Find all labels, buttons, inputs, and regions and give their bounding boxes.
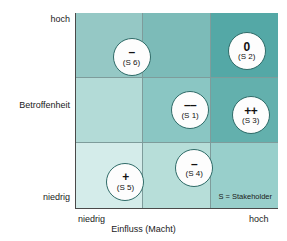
- matrix-grid: –(S 6)0(S 2)––(S 1)++(S 3)–(S 4)+(S 5)S …: [75, 13, 278, 209]
- stakeholder-bubble-s4[interactable]: –(S 4): [175, 149, 213, 187]
- stakeholder-id-label: (S 4): [185, 170, 202, 178]
- stakeholder-id-label: (S 5): [117, 184, 134, 192]
- x-axis-tick-high: hoch: [249, 214, 269, 224]
- stakeholder-bubble-s6[interactable]: –(S 6): [113, 38, 151, 76]
- minus-symbol: –: [191, 158, 197, 169]
- minus-symbol: –: [128, 47, 134, 58]
- stakeholder-bubble-s1[interactable]: ––(S 1): [171, 91, 209, 129]
- double-minus-symbol: ––: [184, 100, 196, 111]
- stakeholder-id-label: (S 1): [181, 112, 198, 120]
- zero-symbol: 0: [244, 41, 250, 52]
- double-plus-symbol: ++: [244, 105, 257, 116]
- stakeholder-bubble-s3[interactable]: ++(S 3): [232, 96, 270, 134]
- stakeholder-id-label: (S 3): [242, 117, 259, 125]
- x-axis-tick-low: niedrig: [78, 214, 105, 224]
- y-axis-title: Betroffenheit: [3, 100, 70, 110]
- plus-symbol: +: [122, 172, 129, 183]
- y-axis-tick-high: hoch: [30, 14, 70, 24]
- stakeholder-power-interest-matrix: hoch Betroffenheit niedrig niedrig Einfl…: [0, 0, 287, 241]
- matrix-cell-r2c1: [76, 78, 143, 143]
- stakeholder-id-label: (S 6): [123, 59, 140, 67]
- stakeholder-bubble-s5[interactable]: +(S 5): [106, 163, 144, 201]
- stakeholder-bubble-s2[interactable]: 0(S 2): [228, 32, 266, 70]
- y-axis-tick-low: niedrig: [25, 192, 70, 202]
- x-axis-title: Einfluss (Macht): [0, 224, 287, 234]
- stakeholder-id-label: (S 2): [238, 53, 255, 61]
- matrix-cell-r1c2: [143, 13, 210, 78]
- legend-stakeholder-note: S = Stakeholder: [218, 192, 272, 201]
